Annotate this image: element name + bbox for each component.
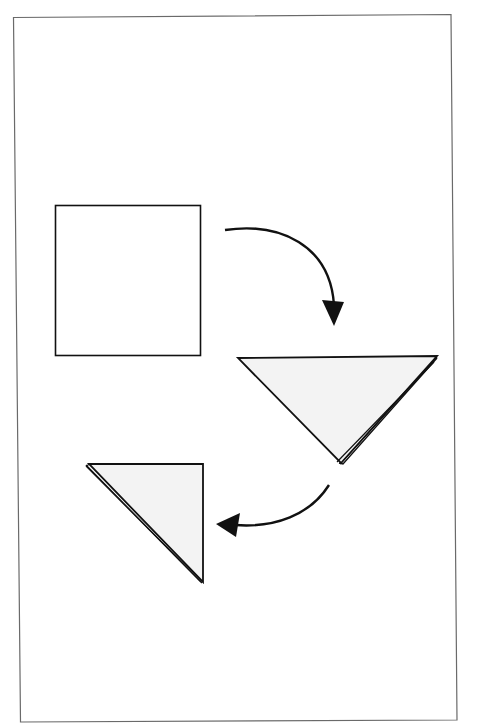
square-paper bbox=[56, 206, 201, 356]
folding-diagram bbox=[0, 0, 477, 728]
